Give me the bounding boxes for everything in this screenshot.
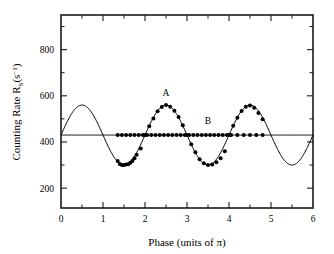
data-point-B bbox=[200, 133, 204, 137]
data-point-B bbox=[196, 133, 200, 137]
data-point-A bbox=[168, 105, 172, 109]
data-point-B bbox=[128, 133, 132, 137]
data-point-A bbox=[235, 116, 239, 120]
data-point-B bbox=[133, 133, 137, 137]
counting-rate-vs-phase-chart: 0123456200400600800 AB Phase (units of π… bbox=[0, 0, 334, 254]
data-point-A bbox=[198, 157, 202, 161]
data-point-A bbox=[151, 116, 155, 120]
y-axis-label-paren-open: (s bbox=[10, 75, 23, 83]
data-point-A bbox=[156, 109, 160, 113]
figure-container: 0123456200400600800 AB Phase (units of π… bbox=[0, 0, 334, 254]
data-point-A bbox=[172, 109, 176, 113]
data-point-B bbox=[212, 133, 216, 137]
y-tick-label: 200 bbox=[40, 184, 55, 194]
x-tick-label: 5 bbox=[269, 214, 274, 224]
data-point-A bbox=[214, 160, 218, 164]
data-point-B bbox=[225, 133, 229, 137]
y-tick-label: 800 bbox=[40, 45, 55, 55]
data-point-B bbox=[149, 133, 153, 137]
x-tick-label: 6 bbox=[311, 214, 316, 224]
data-point-A bbox=[240, 109, 244, 113]
data-point-B bbox=[229, 133, 233, 137]
y-axis-label-main: Counting Rate R bbox=[10, 86, 22, 161]
data-point-B bbox=[254, 133, 258, 137]
annotation-B: B bbox=[205, 116, 211, 126]
y-tick-label: 400 bbox=[40, 137, 55, 147]
data-point-B bbox=[175, 133, 179, 137]
data-point-B bbox=[242, 133, 246, 137]
data-point-B bbox=[141, 133, 145, 137]
data-point-B bbox=[170, 133, 174, 137]
data-point-B bbox=[166, 133, 170, 137]
y-axis-label-paren-close: ) bbox=[10, 63, 23, 67]
data-point-B bbox=[204, 133, 208, 137]
data-point-B bbox=[154, 133, 158, 137]
data-point-A bbox=[202, 161, 206, 165]
x-tick-label: 1 bbox=[101, 214, 106, 224]
data-point-B bbox=[145, 133, 149, 137]
data-point-A bbox=[139, 146, 143, 150]
data-point-A bbox=[135, 153, 139, 157]
data-point-B bbox=[162, 133, 166, 137]
data-point-A bbox=[256, 111, 260, 115]
data-point-A bbox=[261, 117, 265, 121]
data-point-A bbox=[231, 124, 235, 128]
data-point-A bbox=[223, 149, 227, 153]
x-tick-label: 0 bbox=[59, 214, 64, 224]
data-point-B bbox=[116, 133, 120, 137]
data-point-A bbox=[248, 104, 252, 108]
data-point-A bbox=[164, 103, 168, 107]
data-point-B bbox=[221, 133, 225, 137]
data-point-A bbox=[160, 105, 164, 109]
data-point-A bbox=[181, 123, 185, 127]
data-point-A bbox=[206, 163, 210, 167]
chart-background bbox=[0, 0, 334, 254]
data-point-B bbox=[158, 133, 162, 137]
data-point-B bbox=[137, 133, 141, 137]
annotation-A: A bbox=[163, 88, 170, 98]
data-point-A bbox=[177, 115, 181, 119]
data-point-A bbox=[210, 163, 214, 167]
data-point-B bbox=[235, 133, 239, 137]
data-point-A bbox=[147, 124, 151, 128]
data-point-B bbox=[261, 133, 265, 137]
data-point-B bbox=[187, 133, 191, 137]
y-tick-label: 600 bbox=[40, 91, 55, 101]
data-point-A bbox=[193, 150, 197, 154]
data-point-B bbox=[208, 133, 212, 137]
data-point-B bbox=[179, 133, 183, 137]
data-point-B bbox=[217, 133, 221, 137]
data-point-B bbox=[248, 133, 252, 137]
data-point-B bbox=[120, 133, 124, 137]
data-point-B bbox=[183, 133, 187, 137]
data-point-A bbox=[252, 106, 256, 110]
data-point-A bbox=[219, 156, 223, 160]
data-point-A bbox=[133, 156, 137, 160]
x-tick-label: 2 bbox=[143, 214, 148, 224]
x-axis-label: Phase (units of π) bbox=[148, 236, 226, 249]
data-point-B bbox=[124, 133, 128, 137]
data-point-A bbox=[244, 105, 248, 109]
x-tick-label: 3 bbox=[185, 214, 190, 224]
x-tick-label: 4 bbox=[227, 214, 232, 224]
data-point-B bbox=[191, 133, 195, 137]
data-point-A bbox=[189, 142, 193, 146]
